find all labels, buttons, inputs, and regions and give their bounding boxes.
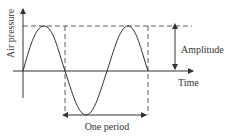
x-axis-label: Time [178, 77, 199, 88]
y-axis-label: Air pressure [5, 8, 16, 58]
amplitude-label: Amplitude [181, 44, 224, 55]
sound-wave-diagram: Air pressure Time Amplitude One period [0, 0, 226, 137]
period-label: One period [85, 121, 130, 132]
